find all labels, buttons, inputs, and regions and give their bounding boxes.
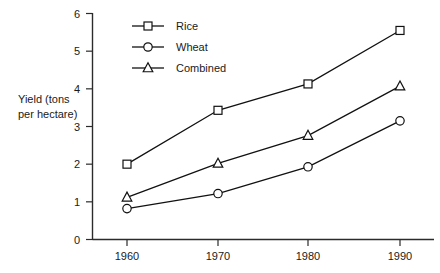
y-axis-label-line2: per hectare) <box>18 108 77 120</box>
data-point-wheat-1970 <box>214 189 222 197</box>
y-tick-label: 2 <box>74 158 80 170</box>
legend-item-rice[interactable]: Rice <box>132 20 198 32</box>
y-tick-label: 0 <box>74 234 80 246</box>
legend-item-combined[interactable]: Combined <box>132 62 226 74</box>
legend-item-wheat[interactable]: Wheat <box>132 41 208 53</box>
y-tick-label: 5 <box>74 45 80 57</box>
legend-marker-combined <box>143 63 153 72</box>
data-point-wheat-1980 <box>304 163 312 171</box>
series-line-wheat <box>127 121 400 209</box>
data-point-rice-1990 <box>396 26 404 34</box>
series-combined <box>122 81 405 201</box>
data-point-wheat-1990 <box>396 117 404 125</box>
legend-label-wheat: Wheat <box>176 41 208 53</box>
data-point-rice-1960 <box>123 160 131 168</box>
series-rice <box>123 26 404 168</box>
data-point-rice-1980 <box>304 80 312 88</box>
legend-marker-wheat <box>144 43 152 51</box>
series-lines <box>122 26 405 212</box>
chart-legend: RiceWheatCombined <box>132 20 226 74</box>
y-tick-label: 1 <box>74 196 80 208</box>
data-point-combined-1980 <box>303 130 313 139</box>
y-axis-label-line1: Yield (tons <box>18 93 70 105</box>
series-wheat <box>123 117 404 213</box>
legend-marker-rice <box>144 22 152 30</box>
y-axis-ticks: 0123456 <box>74 8 93 246</box>
data-point-rice-1970 <box>214 106 222 114</box>
data-point-wheat-1960 <box>123 204 131 212</box>
x-tick-label: 1990 <box>388 250 412 262</box>
legend-label-combined: Combined <box>176 62 226 74</box>
chart-canvas: 0123456 1960197019801990 Yield (tons per… <box>0 0 440 273</box>
y-tick-label: 3 <box>74 121 80 133</box>
line-chart: 0123456 1960197019801990 Yield (tons per… <box>0 0 440 273</box>
y-tick-label: 4 <box>74 83 80 95</box>
y-tick-label: 6 <box>74 8 80 20</box>
x-tick-label: 1970 <box>206 250 230 262</box>
legend-label-rice: Rice <box>176 20 198 32</box>
data-point-combined-1990 <box>395 81 405 90</box>
x-tick-label: 1960 <box>115 250 139 262</box>
x-axis-ticks: 1960197019801990 <box>115 240 412 263</box>
series-line-rice <box>127 30 400 164</box>
x-tick-label: 1980 <box>296 250 320 262</box>
